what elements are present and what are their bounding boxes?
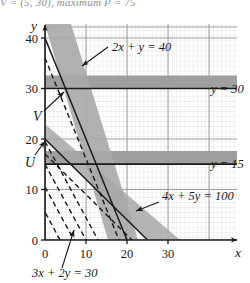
- x-tick-10: 10: [80, 247, 93, 261]
- x-tick-labels: 0 10 20 30: [42, 247, 174, 261]
- y-tick-30: 30: [26, 82, 39, 96]
- linear-programming-graph: 40 30 20 10 0 0 10 20 30 y x: [0, 0, 250, 283]
- label-2x-plus-y-40: 2x + y = 40: [112, 40, 172, 54]
- y-tick-0: 0: [32, 234, 38, 248]
- x-tick-30: 30: [162, 247, 175, 261]
- x-axis-label: x: [234, 245, 241, 260]
- x-tick-20: 20: [121, 247, 134, 261]
- y-axis-label: y: [29, 18, 37, 33]
- point-label-U: U: [25, 155, 36, 170]
- cut-off-caption: V = (5, 30), maximum P = 75: [0, 0, 250, 10]
- y-tick-20: 20: [26, 133, 39, 147]
- label-y-30: y = 30: [209, 82, 244, 96]
- y-tick-labels: 40 30 20 10 0: [26, 32, 39, 248]
- x-tick-0: 0: [42, 247, 48, 261]
- label-3x-plus-2y-30: 3x + 2y = 30: [31, 266, 98, 280]
- y-tick-10: 10: [26, 183, 39, 197]
- label-y-15: y = 15: [209, 157, 244, 171]
- point-label-V: V: [33, 109, 43, 124]
- y-tick-40: 40: [26, 32, 39, 46]
- graph-figure: V = (5, 30), maximum P = 75: [0, 0, 250, 283]
- label-4x-plus-5y-100: 4x + 5y = 100: [162, 189, 234, 203]
